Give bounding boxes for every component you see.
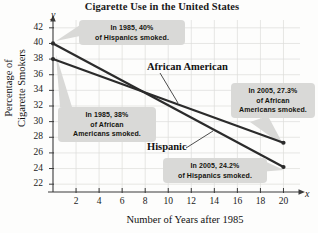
y-axis-tick-label: 38 [27,53,43,63]
annotation-line: In 2005, 24.2% [168,161,262,171]
annotation-line: In 2005, 27.3% [236,86,310,96]
x-axis-tick-label: 16 [229,196,245,206]
series-label-hispanic: Hispanic [147,141,187,152]
y-axis-tick-label: 34 [27,84,43,94]
annotation-line: Americans smoked. [63,129,151,139]
annotation-line: In 1985, 38% [63,110,151,120]
series-label-african-american: African American [147,61,228,72]
y-axis-tick-label: 22 [27,178,43,188]
annotation-line: In 1985, 40% [84,23,180,33]
y-axis-tick-label: 30 [27,116,43,126]
data-point [51,57,55,61]
data-point [281,141,285,145]
leader-hispanic-label [186,131,213,148]
annotation-african-american-2005: In 2005, 27.3% of African Americans smok… [231,83,315,118]
annotation-line: of African [236,96,310,106]
y-axis-tick-label: 26 [27,147,43,157]
x-axis-tick-label: 20 [275,196,291,206]
x-axis-tick-label: 12 [183,196,199,206]
y-axis-tick-label: 42 [27,22,43,32]
x-axis-tick-label: 6 [114,196,130,206]
annotation-line: of Hispanics smoked. [84,33,180,43]
x-axis-tick-label: 18 [252,196,268,206]
annotation-line: of Hispanics smoked. [168,171,262,181]
chart-figure: Cigarette Use in the United States y x 2… [0,0,318,233]
x-axis-tick-label: 8 [137,196,153,206]
y-axis-title: Percentage of Cigarette Smokers [2,23,28,153]
x-axis-tick-label: 2 [68,196,84,206]
annotation-line: of African [63,120,151,130]
data-point [281,165,285,169]
x-axis-tick-label: 4 [91,196,107,206]
annotation-hispanic-1985: In 1985, 40% of Hispanics smoked. [79,20,185,45]
y-axis-title-line2: Cigarette Smokers [15,23,28,153]
x-axis-tick-label: 14 [206,196,222,206]
x-axis-letter: x [305,188,309,199]
annotation-line: Americans smoked. [236,105,310,115]
y-axis-letter: y [51,9,55,20]
leader-hispanic-1985 [56,25,80,41]
y-axis-title-line1: Percentage of [3,59,14,116]
y-axis-tick-label: 24 [27,163,43,173]
data-point [51,41,55,45]
y-axis-tick-label: 36 [27,69,43,79]
x-axis-tick-label: 10 [160,196,176,206]
y-axis-tick-label: 32 [27,100,43,110]
y-axis-tick-label: 40 [27,37,43,47]
x-axis-title: Number of Years after 1985 [80,214,290,225]
annotation-hispanic-2005: In 2005, 24.2% of Hispanics smoked. [163,158,267,183]
y-axis-tick-label: 28 [27,131,43,141]
annotation-african-american-1985: In 1985, 38% of African Americans smoked… [58,107,156,142]
